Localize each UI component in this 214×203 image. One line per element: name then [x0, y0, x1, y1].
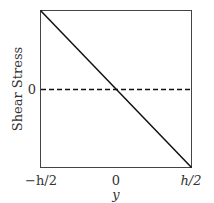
xtick-right: h/2: [180, 173, 201, 188]
xtick-mid: 0: [112, 173, 120, 188]
xtick-left: −h/2: [25, 173, 57, 188]
y-axis-label: Shear Stress: [10, 47, 25, 131]
ytick-zero: 0: [28, 82, 36, 97]
shear-stress-chart: 0 −h/2 0 h/2 y Shear Stress: [0, 0, 214, 203]
shear-stress-line: [41, 11, 192, 168]
x-axis-label: y: [111, 187, 120, 202]
